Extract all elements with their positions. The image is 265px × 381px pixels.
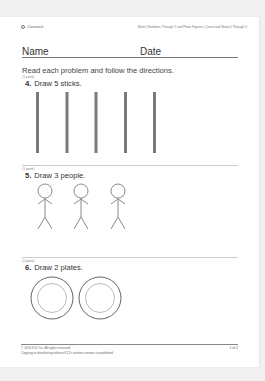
- stick-figure: [74, 184, 88, 229]
- people-drawing: [38, 184, 125, 229]
- drawings: [0, 17, 259, 367]
- stick: [95, 92, 98, 153]
- sticks-drawing: [36, 92, 156, 153]
- plate: [79, 277, 121, 319]
- footer-divider: [21, 344, 238, 345]
- stick: [36, 92, 39, 153]
- stick: [153, 92, 156, 153]
- stick: [66, 92, 69, 153]
- plates-drawing: [31, 277, 121, 319]
- page-number: 1 of 2: [230, 346, 238, 350]
- stick-figure: [111, 184, 125, 229]
- copyright: © 2016 K12 Inc. All rights reserved.: [21, 346, 71, 350]
- worksheet-page: Classwork Math | Numbers Through 5 and P…: [0, 17, 259, 367]
- stick-figure: [38, 184, 52, 229]
- copy-notice: Copying or distributing without K12's wr…: [21, 351, 114, 355]
- stick: [124, 92, 127, 153]
- plate: [31, 277, 73, 319]
